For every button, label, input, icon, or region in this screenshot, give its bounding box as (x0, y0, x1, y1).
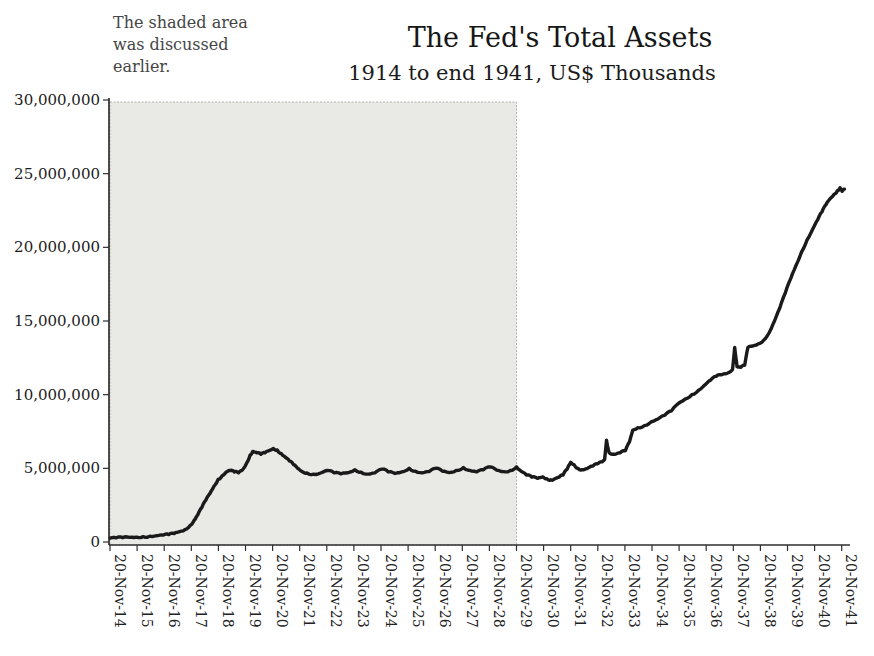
x-axis-tick-label: 20-Nov-20 (274, 554, 290, 628)
x-axis-tick-label: 20-Nov-33 (626, 554, 642, 628)
x-axis-tick-label: 20-Nov-29 (518, 554, 534, 628)
y-axis-tick-label: 5,000,000 (24, 459, 100, 477)
chart-canvas: 05,000,00010,000,00015,000,00020,000,000… (0, 0, 874, 656)
x-axis-tick-label: 20-Nov-34 (654, 554, 670, 628)
x-axis-tick-label: 20-Nov-31 (572, 554, 588, 628)
x-axis-tick-label: 20-Nov-26 (437, 554, 453, 628)
x-axis-tick-label: 20-Nov-28 (491, 554, 507, 628)
x-axis-tick-label: 20-Nov-22 (328, 554, 344, 628)
annotation-line: was discussed (113, 35, 229, 54)
x-axis-tick-label: 20-Nov-21 (301, 554, 317, 628)
y-axis-tick-label: 20,000,000 (14, 238, 100, 256)
x-axis-tick-label: 20-Nov-38 (762, 554, 778, 628)
annotation-line: earlier. (113, 57, 170, 76)
x-axis-labels: 20-Nov-1420-Nov-1520-Nov-1620-Nov-1720-N… (112, 554, 860, 628)
y-axis-labels: 05,000,00010,000,00015,000,00020,000,000… (14, 91, 100, 551)
y-axis-tick-label: 15,000,000 (14, 312, 100, 330)
chart-subtitle: 1914 to end 1941, US$ Thousands (348, 61, 716, 85)
x-axis-tick-label: 20-Nov-41 (843, 554, 859, 628)
x-axis-tick-label: 20-Nov-36 (708, 554, 724, 628)
x-axis-tick-label: 20-Nov-18 (220, 554, 236, 628)
x-axis-tick-label: 20-Nov-23 (355, 554, 371, 628)
x-axis-tick-label: 20-Nov-25 (410, 554, 426, 628)
x-axis-tick-label: 20-Nov-15 (139, 554, 155, 628)
annotation-line: The shaded area (113, 13, 248, 32)
y-axis-tick-label: 10,000,000 (14, 386, 100, 404)
annotation-note: The shaded area was discussed earlier. (113, 13, 248, 76)
x-axis-tick-label: 20-Nov-24 (383, 554, 399, 628)
x-axis-tick-label: 20-Nov-35 (681, 554, 697, 628)
x-axis-tick-label: 20-Nov-27 (464, 554, 480, 628)
x-axis-tick-label: 20-Nov-14 (112, 554, 128, 628)
x-axis-tick-label: 20-Nov-30 (545, 554, 561, 628)
x-axis-tick-label: 20-Nov-19 (247, 554, 263, 628)
y-axis-tick-label: 30,000,000 (14, 91, 100, 109)
x-axis-tick-label: 20-Nov-37 (735, 554, 751, 628)
x-axis-tick-label: 20-Nov-40 (816, 554, 832, 628)
shaded-region (110, 102, 517, 545)
x-axis-tick-label: 20-Nov-17 (193, 554, 209, 628)
fed-total-assets-chart: 05,000,00010,000,00015,000,00020,000,000… (0, 0, 874, 656)
x-axis-tick-label: 20-Nov-32 (599, 554, 615, 628)
y-axis-tick-label: 25,000,000 (14, 165, 100, 183)
x-axis-tick-label: 20-Nov-39 (789, 554, 805, 628)
x-axis-tick-label: 20-Nov-16 (166, 554, 182, 628)
chart-title: The Fed's Total Assets (408, 22, 713, 53)
y-axis-tick-label: 0 (90, 533, 100, 551)
